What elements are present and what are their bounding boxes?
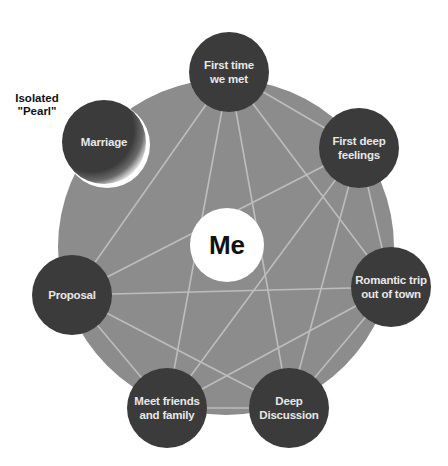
node-circle bbox=[351, 247, 431, 327]
node-circle bbox=[319, 108, 399, 188]
node-circle bbox=[127, 368, 207, 448]
relationship-network-diagram: Me First timewe metFirst deepfeelingsRom… bbox=[0, 0, 448, 466]
annotation-line-2: "Pearl" bbox=[6, 105, 68, 118]
node-first-deep[interactable]: First deepfeelings bbox=[319, 108, 399, 188]
node-label: First time bbox=[204, 59, 254, 71]
node-label: feelings bbox=[338, 149, 380, 161]
center-label: Me bbox=[209, 230, 245, 260]
node-label: First deep bbox=[333, 135, 386, 147]
node-label: Meet friends bbox=[134, 395, 199, 407]
node-first-time[interactable]: First timewe met bbox=[189, 32, 269, 112]
node-circle bbox=[249, 368, 329, 448]
node-label: Discussion bbox=[259, 409, 319, 421]
node-meet-friends[interactable]: Meet friendsand family bbox=[127, 368, 207, 448]
node-romantic[interactable]: Romantic tripout of town bbox=[351, 247, 431, 327]
node-label: Marriage bbox=[81, 136, 127, 148]
annotation-line-1: Isolated bbox=[6, 92, 68, 105]
node-label: out of town bbox=[361, 288, 421, 300]
node-proposal[interactable]: Proposal bbox=[32, 255, 112, 335]
isolated-pearl-annotation: Isolated "Pearl" bbox=[6, 92, 68, 118]
node-label: we met bbox=[209, 73, 248, 85]
node-label: Romantic trip bbox=[355, 274, 427, 286]
center-node-me[interactable]: Me bbox=[190, 208, 264, 282]
node-label: Proposal bbox=[48, 289, 96, 301]
node-label: Deep bbox=[275, 395, 302, 407]
node-deep-discussion[interactable]: DeepDiscussion bbox=[249, 368, 329, 448]
node-circle bbox=[189, 32, 269, 112]
node-label: and family bbox=[140, 409, 196, 421]
